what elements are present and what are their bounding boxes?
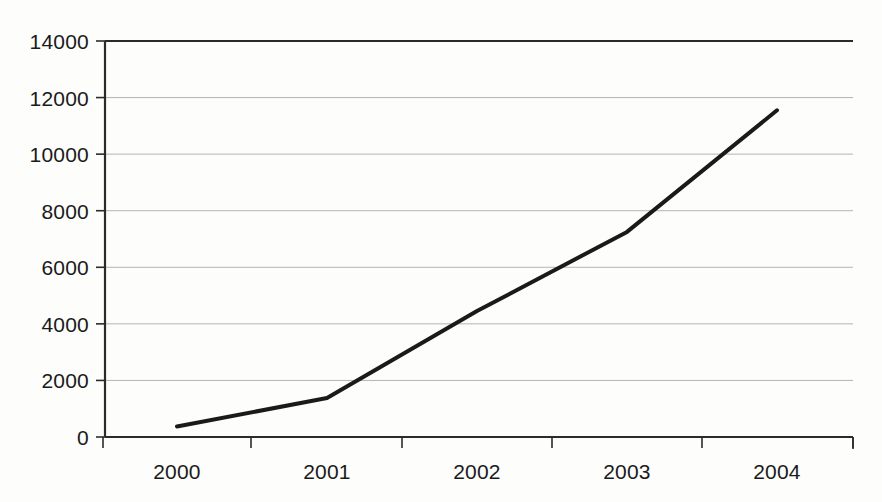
chart-plot-area	[0, 0, 882, 502]
y-axis-tick-label: 8000	[41, 200, 89, 221]
data-series-line	[177, 110, 777, 426]
y-axis-tick-label: 14000	[30, 31, 89, 52]
y-axis-tick-label: 2000	[41, 370, 89, 391]
x-axis-tick-label: 2002	[453, 461, 501, 482]
gridlines	[105, 41, 853, 380]
line-chart: 02000400060008000100001200014000 2000200…	[0, 0, 882, 502]
y-axis-tick-label: 12000	[30, 87, 89, 108]
y-axis-ticks	[96, 41, 105, 437]
y-axis-tick-label: 4000	[41, 313, 89, 334]
x-axis-tick-label: 2000	[153, 461, 201, 482]
y-axis-tick-label: 6000	[41, 257, 89, 278]
y-axis-tick-label: 10000	[30, 144, 89, 165]
y-axis-tick-label: 0	[77, 427, 89, 448]
x-axis-ticks	[103, 437, 853, 448]
x-axis-tick-label: 2004	[753, 461, 801, 482]
x-axis-tick-label: 2001	[303, 461, 351, 482]
x-axis-tick-label: 2003	[603, 461, 651, 482]
